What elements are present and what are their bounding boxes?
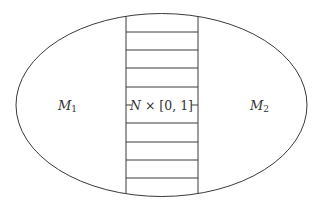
label-m2: M2 [249,98,269,114]
connected-sum-diagram: M1 M2 N × [0, 1] [0,0,321,206]
label-m1: M1 [57,98,77,114]
label-neck: N × [0, 1] [129,98,193,113]
